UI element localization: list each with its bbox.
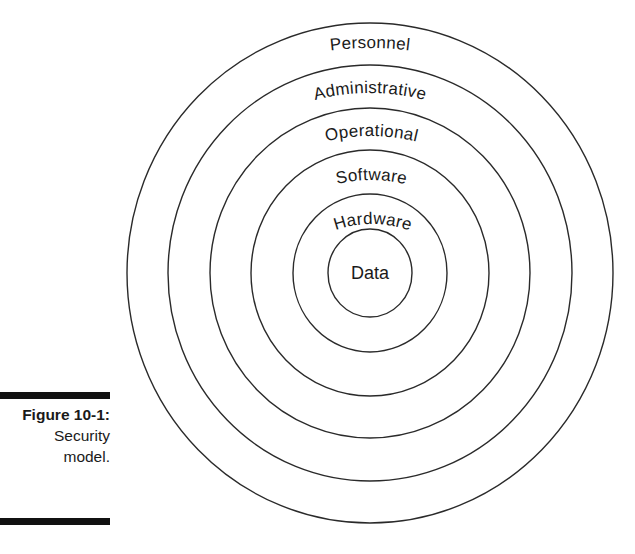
label-software: Software [334, 165, 409, 188]
label-operational: Operational [323, 121, 420, 146]
caption-bottom-rule [0, 518, 110, 525]
figure-number: Figure 10-1: [0, 404, 110, 425]
security-model-diagram: Personnel Administrative Operational Sof… [0, 0, 635, 554]
figure-caption: Figure 10-1: Security model. [0, 404, 110, 467]
label-hardware: Hardware [331, 209, 414, 235]
label-data: Data [351, 263, 390, 283]
label-administrative: Administrative [312, 78, 429, 104]
caption-line-1: Security [0, 425, 110, 446]
label-personnel: Personnel [329, 33, 411, 54]
caption-top-rule [0, 392, 110, 399]
caption-line-2: model. [0, 446, 110, 467]
